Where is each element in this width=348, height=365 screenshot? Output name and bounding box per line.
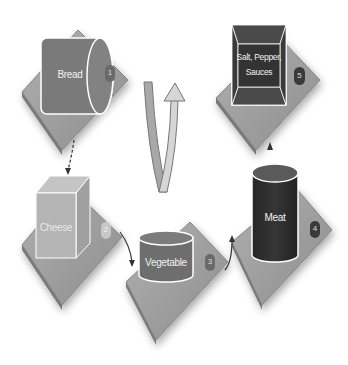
cheese-shape [36, 176, 90, 258]
step-5-label-line1: Salt, Pepper, [234, 52, 284, 62]
connector-4-to-5 [267, 142, 273, 150]
step-3-label: Vegetable [139, 257, 193, 268]
sauces-box-shape [232, 25, 286, 105]
step-4-label: Meat [252, 212, 298, 223]
diagram-graphics [0, 0, 348, 365]
step-2-label: Cheese [36, 222, 76, 233]
step-4-number-badge: 4 [310, 221, 320, 237]
step-5-label-line2: Sauces [234, 67, 284, 77]
step-3-number-badge: 3 [205, 254, 215, 270]
step-1-number-badge: 1 [105, 65, 115, 81]
u-turn-arrow-icon [144, 82, 185, 192]
step-5-number-badge: 5 [294, 68, 305, 84]
step-1-label: Bread [45, 69, 95, 80]
connector-3-to-4 [225, 235, 235, 270]
step-2-number-badge: 2 [101, 222, 111, 238]
sandwich-process-diagram: Bread Cheese Vegetable Meat Salt, Pepper… [0, 0, 348, 365]
